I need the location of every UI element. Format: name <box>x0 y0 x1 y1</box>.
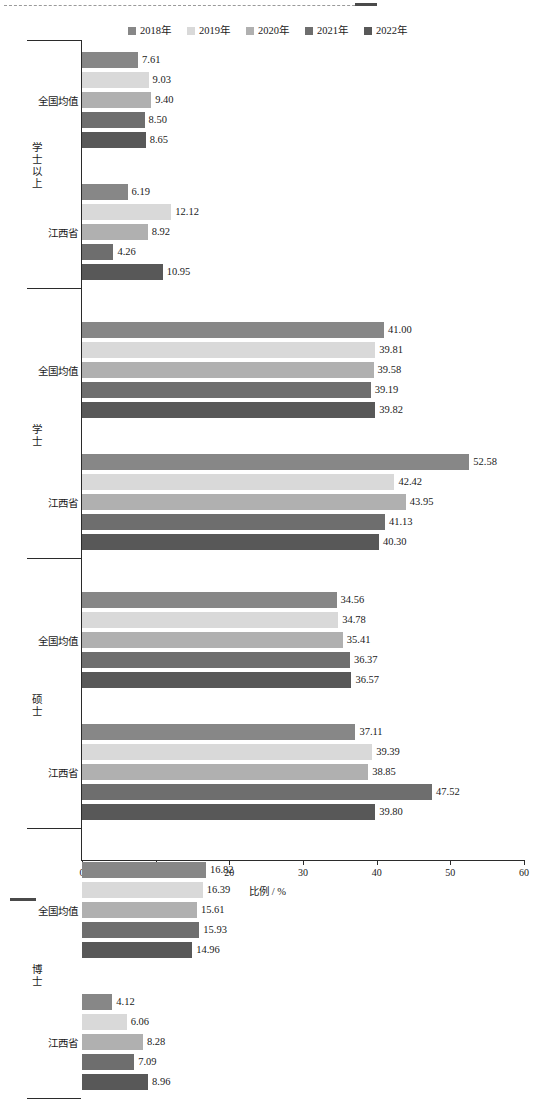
chart-bar <box>82 672 351 688</box>
bar-value-label: 10.95 <box>167 266 191 277</box>
legend-item: 2021年 <box>305 26 348 37</box>
bar-value-label: 43.95 <box>410 496 434 507</box>
bar-value-label: 40.30 <box>383 536 407 547</box>
chart-bar <box>82 224 148 240</box>
region-label: 江西省 <box>22 225 78 240</box>
legend-swatch-icon <box>128 27 136 35</box>
chart-bar <box>82 244 113 260</box>
bar-value-label: 15.61 <box>201 904 225 915</box>
chart-bar <box>82 942 192 958</box>
group-separator <box>27 828 81 829</box>
bar-value-label: 7.09 <box>138 1056 156 1067</box>
legend-label: 2018年 <box>140 26 171 37</box>
chart-bar <box>82 764 368 780</box>
legend-item: 2018年 <box>128 26 171 37</box>
bar-value-label: 8.96 <box>152 1076 170 1087</box>
bar-value-label: 8.92 <box>152 226 170 237</box>
bar-value-label: 7.61 <box>142 54 160 65</box>
chart-bar <box>82 92 151 108</box>
legend-swatch-icon <box>364 27 372 35</box>
region-label: 全国均值 <box>22 363 78 378</box>
bar-value-label: 6.19 <box>132 186 150 197</box>
region-label: 江西省 <box>22 765 78 780</box>
bar-value-label: 39.82 <box>379 404 403 415</box>
chart-bar <box>82 474 394 490</box>
chart-bar <box>82 454 469 470</box>
chart-bar <box>82 514 385 530</box>
chart-bar <box>82 862 206 878</box>
bar-value-label: 34.78 <box>342 614 366 625</box>
degree-level-label: 博士 <box>27 962 43 990</box>
chart-bar <box>82 652 350 668</box>
bar-value-label: 47.52 <box>436 786 460 797</box>
legend-item: 2022年 <box>364 26 407 37</box>
bar-value-label: 8.65 <box>150 134 168 145</box>
region-label: 全国均值 <box>22 93 78 108</box>
degree-level-label: 硕士 <box>27 692 43 720</box>
chart-bar <box>82 804 375 820</box>
degree-level-label: 学士以上 <box>27 141 43 191</box>
page-top-dashed-rule <box>4 5 370 6</box>
legend-swatch-icon <box>246 27 254 35</box>
bar-value-label: 39.39 <box>376 746 400 757</box>
legend-swatch-icon <box>187 27 195 35</box>
legend-item: 2019年 <box>187 26 230 37</box>
chart-bar <box>82 1014 127 1030</box>
degree-level-label: 学士 <box>27 422 43 450</box>
bar-value-label: 34.56 <box>341 594 365 605</box>
figure-caption <box>0 895 535 905</box>
bar-value-label: 39.81 <box>379 344 403 355</box>
bar-value-label: 39.19 <box>375 384 399 395</box>
bar-value-label: 35.41 <box>347 634 371 645</box>
x-axis-tick-label: 50 <box>445 867 455 878</box>
bar-value-label: 42.42 <box>398 476 422 487</box>
bar-value-label: 39.80 <box>379 806 403 817</box>
bar-value-label: 12.12 <box>175 206 199 217</box>
bar-value-label: 52.58 <box>473 456 497 467</box>
chart-bar <box>82 994 112 1010</box>
chart-bar <box>82 612 338 628</box>
bar-value-label: 16.82 <box>210 864 234 875</box>
x-axis-tick <box>303 860 304 865</box>
chart-bar <box>82 204 171 220</box>
bar-value-label: 15.93 <box>203 924 227 935</box>
chart-bar <box>82 494 406 510</box>
bar-value-label: 37.11 <box>359 726 382 737</box>
legend-item: 2020年 <box>246 26 289 37</box>
chart-bar <box>82 1054 134 1070</box>
region-label: 全国均值 <box>22 633 78 648</box>
chart-legend: 2018年2019年2020年2021年2022年 <box>0 26 535 37</box>
chart-bar <box>82 784 432 800</box>
chart-bar <box>82 264 163 280</box>
region-label: 全国均值 <box>22 903 78 918</box>
bar-value-label: 8.50 <box>149 114 167 125</box>
chart-bar <box>82 402 375 418</box>
bar-value-label: 38.85 <box>372 766 396 777</box>
chart-bar <box>82 382 371 398</box>
bar-value-label: 36.57 <box>355 674 379 685</box>
x-axis-tick <box>450 860 451 865</box>
bar-value-label: 36.37 <box>354 654 378 665</box>
x-axis-tick-label: 30 <box>298 867 308 878</box>
bar-value-label: 39.58 <box>378 364 402 375</box>
page-top-rule-cap <box>355 3 377 6</box>
chart-bar <box>82 632 343 648</box>
bar-value-label: 6.06 <box>131 1016 149 1027</box>
legend-label: 2022年 <box>376 26 407 37</box>
x-axis-tick-label: 60 <box>519 867 529 878</box>
group-separator <box>27 288 81 289</box>
bar-value-label: 9.40 <box>155 94 173 105</box>
chart-bar <box>82 342 375 358</box>
bar-value-label: 4.12 <box>116 996 134 1007</box>
bar-value-label: 4.26 <box>117 246 135 257</box>
bar-value-label: 41.00 <box>388 324 412 335</box>
legend-swatch-icon <box>305 27 313 35</box>
legend-label: 2020年 <box>258 26 289 37</box>
chart-bar <box>82 72 149 88</box>
chart-bar <box>82 184 128 200</box>
bar-value-label: 41.13 <box>389 516 413 527</box>
x-axis-tick <box>377 860 378 865</box>
bar-value-label: 8.28 <box>147 1036 165 1047</box>
chart-bar <box>82 922 199 938</box>
chart-plot-area: 比例 / % 01020304050607.619.039.408.508.65… <box>0 40 535 870</box>
